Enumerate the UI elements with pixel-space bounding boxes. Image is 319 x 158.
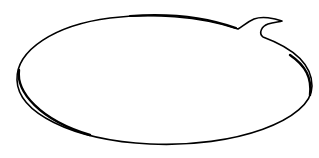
speech-bubble-icon: [0, 0, 319, 158]
speech-bubble-outline: [17, 16, 312, 145]
canvas: [0, 0, 319, 158]
